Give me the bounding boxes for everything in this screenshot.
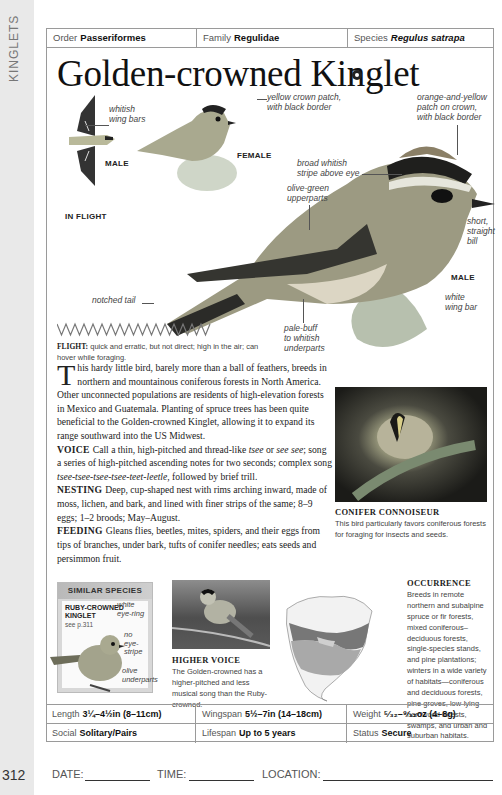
annotation-pale-buff: pale-buffto whitishunderparts <box>284 324 325 353</box>
conifer-connoisseur-photo <box>335 387 487 502</box>
species-card: OrderPasseriformes FamilyRegulidae Speci… <box>46 28 494 742</box>
drop-cap: T <box>57 363 75 387</box>
annotation-notched-tail: notched tail <box>92 296 135 306</box>
leader-line <box>257 99 267 100</box>
leader-line <box>309 205 310 230</box>
conifer-caption-heading: CONIFER CONNOISEUR <box>335 507 439 517</box>
stat-social: SocialSolitary/Pairs <box>46 724 196 743</box>
page-number: 312 <box>2 767 25 783</box>
stat-status: StatusSecure <box>347 724 494 743</box>
species-description: This hardy little bird, barely more than… <box>57 361 332 565</box>
log-time-field[interactable] <box>189 780 254 781</box>
species-cell: SpeciesRegulus satrapa <box>348 29 493 47</box>
stat-wingspan: Wingspan5½–7in (14–18cm) <box>196 705 347 723</box>
leader-line <box>457 125 458 155</box>
annotation-orange-yellow-crown: orange-and-yellowpatch on crown,with bla… <box>417 93 487 122</box>
stat-lifespan: LifespanUp to 5 years <box>196 724 347 743</box>
higher-voice-heading: HIGHER VOICE <box>172 655 240 665</box>
annotation-broad-stripe: broad whitishstripe above eye <box>297 159 359 179</box>
higher-voice-photo <box>172 580 270 649</box>
annotation-olive-underparts: oliveunderparts <box>122 667 158 684</box>
similar-species-heading: SIMILAR SPECIES <box>58 583 152 599</box>
page-title: Golden-crowned Kinglet <box>57 52 419 95</box>
annotation-no-eye-stripe: no eye-stripe <box>124 631 148 657</box>
nesting-heading: NESTING <box>57 484 102 495</box>
label-male-flight: MALE <box>105 159 129 168</box>
stat-weight: Weight⁵⁄₃₂–⁹⁄₃₂oz (4–8g) <box>347 705 494 723</box>
voice-heading: VOICE <box>57 444 90 455</box>
log-location-field[interactable] <box>323 780 493 781</box>
taxonomy-header: OrderPasseriformes FamilyRegulidae Speci… <box>47 29 493 48</box>
range-map <box>277 589 377 704</box>
conifer-caption-text: This bird particularly favors coniferous… <box>335 519 487 541</box>
side-strip: KINGLETS <box>0 0 34 795</box>
annotation-olive-upperparts: olive-greenupperparts <box>287 184 329 204</box>
similar-species-name: RUBY-CROWNEDKINGLET <box>65 604 124 621</box>
log-time-label: TIME: <box>157 768 186 780</box>
annotation-short-bill: short,straightbill <box>467 217 495 246</box>
section-tab-label: KINGLETS <box>7 22 27 82</box>
flight-pattern-zigzag-icon <box>57 321 212 337</box>
log-date-field[interactable] <box>85 780 150 781</box>
log-location-label: LOCATION: <box>262 768 320 780</box>
leader-line <box>142 303 154 304</box>
leader-line <box>303 299 304 323</box>
sound-icon[interactable] <box>352 70 362 80</box>
ruby-crowned-kinglet-illustration <box>50 629 130 693</box>
stats-row: SocialSolitary/Pairs LifespanUp to 5 yea… <box>46 724 494 743</box>
similar-species-panel: RUBY-CROWNEDKINGLET see p.311 whiteeye-r… <box>62 601 148 688</box>
similar-species-page-ref[interactable]: see p.311 <box>65 621 93 628</box>
log-date-label: DATE: <box>52 768 84 780</box>
annotation-yellow-crown: yellow crown patch,with black border <box>267 93 341 113</box>
occurrence-heading: OCCURRENCE <box>407 578 471 588</box>
leader-line <box>85 125 109 126</box>
stats-row: Length3¼–4½in (8–11cm) Wingspan5½–7in (1… <box>46 705 494 724</box>
leader-line <box>362 174 402 175</box>
label-male-main: MALE <box>451 273 475 282</box>
feeding-heading: FEEDING <box>57 525 103 536</box>
similar-species-box: SIMILAR SPECIES RUBY-CROWNEDKINGLET see … <box>57 582 153 693</box>
annotation-white-wing-bar: whitewing bar <box>445 293 477 313</box>
family-cell: FamilyRegulidae <box>197 29 348 47</box>
stat-length: Length3¼–4½in (8–11cm) <box>46 705 196 723</box>
order-cell: OrderPasseriformes <box>47 29 197 47</box>
annotation-white-eye-ring: whiteeye-ring <box>117 601 144 618</box>
stats-table: Length3¼–4½in (8–11cm) Wingspan5½–7in (1… <box>46 704 494 743</box>
label-in-flight: IN FLIGHT <box>65 212 107 221</box>
